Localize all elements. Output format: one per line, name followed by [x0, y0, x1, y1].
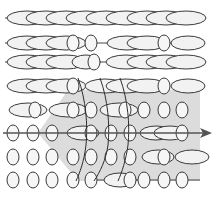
circle-glyph: [7, 149, 19, 165]
circle-glyph: [27, 172, 39, 188]
circle-glyph: [158, 35, 170, 51]
circle-glyph: [46, 172, 58, 188]
circle-glyph: [67, 35, 79, 51]
circle-glyph: [46, 149, 58, 165]
circle-glyph: [67, 172, 79, 188]
ellipse-glyph: [46, 36, 86, 50]
circle-glyph: [158, 172, 170, 188]
circle-glyph: [85, 35, 97, 51]
circle-glyph: [67, 149, 79, 165]
circle-glyph: [138, 172, 150, 188]
circle-glyph: [88, 54, 100, 70]
circle-glyph: [176, 102, 188, 118]
circle-glyph: [176, 172, 188, 188]
circle-glyph: [85, 149, 97, 165]
ellipse-glyph: [171, 36, 205, 50]
circle-glyph: [67, 78, 79, 94]
circle-glyph: [138, 102, 150, 118]
circle-glyph: [124, 172, 136, 188]
ellipse-glyph: [171, 79, 205, 93]
ellipse-glyph: [166, 55, 206, 69]
circle-glyph: [67, 102, 79, 118]
circle-glyph: [158, 149, 170, 165]
circle-glyph: [119, 102, 131, 118]
circle-glyph: [7, 172, 19, 188]
tensor-glyph-diagram: [0, 0, 218, 202]
circle-glyph: [158, 78, 170, 94]
circle-glyph: [85, 102, 97, 118]
circle-glyph: [27, 149, 39, 165]
ellipse-glyph: [46, 79, 86, 93]
circle-glyph: [29, 102, 41, 118]
circle-glyph: [158, 102, 170, 118]
ellipse-glyph: [175, 150, 209, 164]
ellipse-glyph: [166, 11, 206, 25]
